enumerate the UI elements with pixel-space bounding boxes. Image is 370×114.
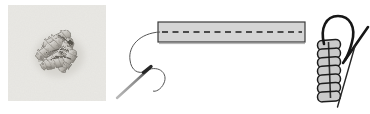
illustration-stage	[0, 0, 370, 114]
bullion-knot-photo	[8, 5, 106, 101]
fabric-band-shadow	[159, 43, 305, 44]
bullion-coil-diagram	[310, 0, 370, 114]
thread-upper-curve	[130, 32, 160, 72]
thread-lower-curl	[147, 69, 165, 92]
thread-tail	[343, 27, 368, 63]
coil-segment	[317, 91, 341, 102]
stitch-band-diagram	[110, 0, 310, 114]
needle-eye	[144, 67, 152, 73]
